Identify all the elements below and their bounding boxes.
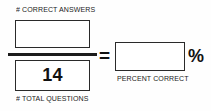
correct-answers-value xyxy=(16,21,89,47)
result-label: PERCENT CORRECT xyxy=(117,75,189,83)
percent-sign-icon: % xyxy=(188,47,204,65)
percent-correct-input-box[interactable] xyxy=(115,42,185,71)
denominator-label: # TOTAL QUESTIONS xyxy=(16,95,88,103)
fraction-bar xyxy=(8,53,97,56)
percent-correct-value xyxy=(116,43,184,70)
percent-correct-formula-diagram: # CORRECT ANSWERS 14 # TOTAL QUESTIONS =… xyxy=(0,0,211,111)
correct-answers-input-box[interactable] xyxy=(15,20,90,48)
numerator-label: # CORRECT ANSWERS xyxy=(16,6,95,14)
total-questions-input-box[interactable]: 14 xyxy=(15,60,90,91)
equals-sign-icon: = xyxy=(99,46,110,65)
total-questions-value: 14 xyxy=(16,61,89,90)
